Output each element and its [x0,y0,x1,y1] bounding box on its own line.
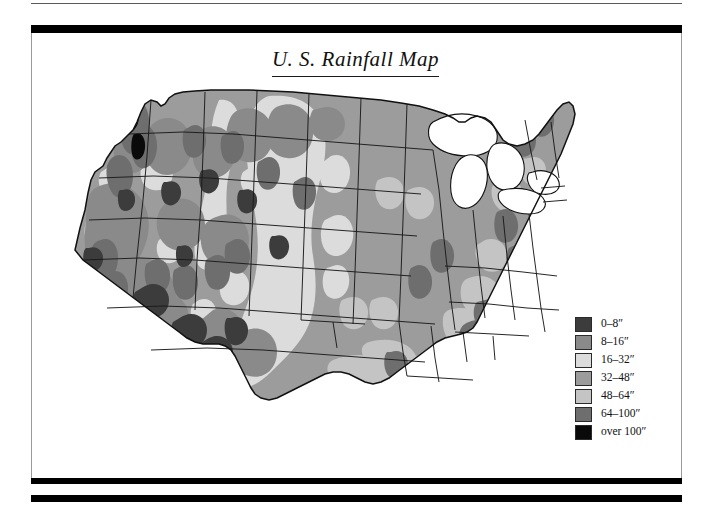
bottom-black-bar-upper [31,478,682,484]
legend-item-0: 0–8″ [575,315,675,333]
legend-swatch-16-32 [575,353,592,368]
legend-item-4: 48–64″ [575,387,675,405]
legend-item-5: 64–100″ [575,405,675,423]
legend-item-2: 16–32″ [575,351,675,369]
legend-swatch-8-16 [575,335,592,350]
top-hairline-rule [31,3,682,4]
legend-label-over-100: over 100″ [601,426,646,438]
legend-swatch-48-64 [575,389,592,404]
legend-label-16-32: 16–32″ [601,354,635,366]
us-rainfall-map [33,60,593,460]
legend-swatch-over-100 [575,425,592,440]
legend-label-0-8: 0–8″ [601,318,623,330]
map-contour-bands [33,60,593,460]
legend-swatch-0-8 [575,317,592,332]
bottom-black-bar-lower [31,495,682,502]
legend-label-8-16: 8–16″ [601,336,629,348]
legend-item-1: 8–16″ [575,333,675,351]
legend-label-64-100: 64–100″ [601,408,640,420]
legend-label-48-64: 48–64″ [601,390,635,402]
legend-swatch-32-48 [575,371,592,386]
rainfall-legend: 0–8″ 8–16″ 16–32″ 32–48″ 48–64″ 64–100″ … [575,315,675,441]
legend-item-3: 32–48″ [575,369,675,387]
legend-swatch-64-100 [575,407,592,422]
legend-label-32-48: 32–48″ [601,372,635,384]
legend-item-6: over 100″ [575,423,675,441]
rainfall-map-page: U. S. Rainfall Map [0,0,711,510]
